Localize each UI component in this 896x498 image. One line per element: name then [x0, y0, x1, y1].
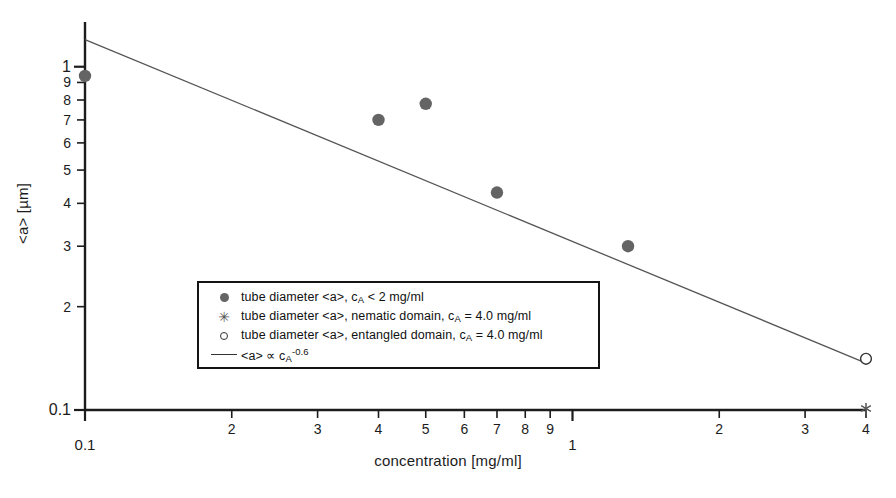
y-tick-label: 2 — [15, 299, 71, 315]
y-tick-label: 7 — [15, 112, 71, 128]
legend-entry: <a> ∝ cA-0.6 — [207, 345, 590, 364]
legend-box: tube diameter <a>, cA < 2 mg/ml✳tube dia… — [197, 281, 600, 369]
data-point-filled-circle — [372, 114, 384, 126]
y-axis-title: <a> [µm] — [14, 154, 31, 274]
legend-entry: tube diameter <a>, cA < 2 mg/ml — [207, 288, 590, 307]
data-point-filled-circle — [420, 98, 432, 110]
y-tick-label: 6 — [15, 135, 71, 151]
x-tick-label: 7 — [493, 421, 501, 437]
x-tick-label: 2 — [228, 421, 236, 437]
legend-line-icon — [207, 345, 241, 364]
x-tick-label: 5 — [422, 421, 430, 437]
x-tick-label: 3 — [801, 421, 809, 437]
x-tick-label: 4 — [862, 421, 870, 437]
legend-entry-label: tube diameter <a>, entangled domain, cA … — [241, 328, 543, 343]
data-point-open-circle — [861, 353, 872, 364]
x-tick-label: 0.1 — [75, 436, 96, 453]
asterisk-icon: ✳ — [218, 312, 230, 322]
x-tick-label: 2 — [715, 421, 723, 437]
data-point-filled-circle — [622, 240, 634, 252]
legend-entry-label: <a> ∝ cA-0.6 — [241, 346, 309, 364]
line-swatch-icon — [211, 354, 237, 355]
data-point-filled-circle — [79, 70, 91, 82]
data-point-filled-circle — [491, 186, 503, 198]
legend-filled-circle-icon — [207, 288, 241, 307]
y-tick-label: 1 — [15, 58, 71, 76]
plot-canvas — [0, 0, 896, 498]
x-axis-title: concentration [mg/ml] — [0, 452, 896, 469]
legend-entry: tube diameter <a>, entangled domain, cA … — [207, 326, 590, 345]
legend-entry: ✳tube diameter <a>, nematic domain, cA =… — [207, 307, 590, 326]
legend-entry-label: tube diameter <a>, nematic domain, cA = … — [241, 309, 531, 324]
superscript-exponent: -0.6 — [292, 346, 309, 357]
x-tick-label: 1 — [568, 436, 576, 453]
legend-entry-label: tube diameter <a>, cA < 2 mg/ml — [241, 290, 424, 305]
x-axis-ticks — [85, 410, 866, 421]
y-tick-label: 0.1 — [15, 401, 71, 419]
legend-open-circle-icon — [207, 326, 241, 345]
x-tick-label: 3 — [314, 421, 322, 437]
y-tick-label: 9 — [15, 74, 71, 90]
filled-circle-icon — [220, 293, 229, 302]
open-circle-icon — [220, 332, 228, 340]
y-tick-label: 8 — [15, 92, 71, 108]
figure-root: 0.1234567891234 0.1234567891 concentrati… — [0, 0, 896, 498]
y-axis-ticks — [74, 67, 85, 410]
x-tick-label: 8 — [521, 421, 529, 437]
x-tick-label: 9 — [546, 421, 554, 437]
x-tick-label: 4 — [375, 421, 383, 437]
x-tick-label: 6 — [460, 421, 468, 437]
legend-asterisk-icon: ✳ — [207, 307, 241, 326]
